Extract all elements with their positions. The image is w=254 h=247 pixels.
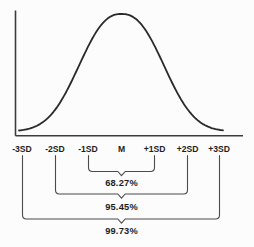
bell-curve bbox=[19, 14, 223, 131]
coverage-bracket-1sd bbox=[89, 156, 155, 176]
normal-distribution-figure: -3SD -2SD -1SD M +1SD +2SD +3SD 68.27% 9… bbox=[0, 0, 254, 247]
tick-label-minus-3sd: -3SD bbox=[12, 144, 32, 154]
coverage-bracket-3sd bbox=[23, 156, 220, 224]
coverage-label-2sd: 95.45% bbox=[105, 202, 138, 212]
tick-label-minus-2sd: -2SD bbox=[45, 144, 65, 154]
tick-label-minus-1sd: -1SD bbox=[78, 144, 98, 154]
coverage-label-3sd: 99.73% bbox=[105, 226, 138, 236]
tick-label-plus-2sd: +2SD bbox=[177, 144, 199, 154]
tick-label-plus-1sd: +1SD bbox=[144, 144, 166, 154]
coverage-label-1sd: 68.27% bbox=[105, 178, 138, 188]
tick-label-mean: M bbox=[118, 144, 125, 154]
tick-label-plus-3sd: +3SD bbox=[208, 144, 230, 154]
normal-distribution-chart: -3SD -2SD -1SD M +1SD +2SD +3SD 68.27% 9… bbox=[0, 0, 254, 247]
coverage-bracket-2sd bbox=[56, 156, 188, 199]
